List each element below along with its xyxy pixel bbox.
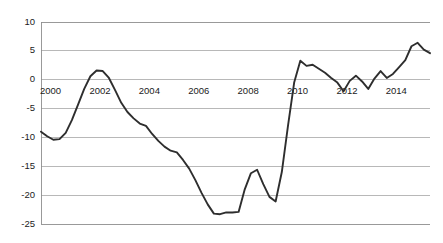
y-tick-label--15: -15	[21, 160, 35, 171]
y-tick-label--10: -10	[21, 131, 35, 142]
series-line-1	[41, 43, 430, 214]
chart-container: 1050-5-10-15-20-25 200020022004200620082…	[0, 0, 443, 243]
y-tick-label-0: 0	[30, 73, 35, 84]
line-chart: 1050-5-10-15-20-25 200020022004200620082…	[0, 0, 443, 243]
x-axis-tick-labels: 20002002200420062008201020122014	[40, 85, 407, 96]
data-series-group	[41, 43, 430, 214]
y-tick-label-10: 10	[24, 16, 35, 27]
x-tick-label-2010: 2010	[287, 85, 308, 96]
x-tick-label-2006: 2006	[188, 85, 209, 96]
x-tick-label-2000: 2000	[40, 85, 61, 96]
y-tick-label--20: -20	[21, 189, 35, 200]
gridlines-group	[41, 22, 430, 224]
y-tick-label-5: 5	[30, 44, 35, 55]
x-tick-label-2014: 2014	[386, 85, 407, 96]
y-axis-tick-labels: 1050-5-10-15-20-25	[21, 16, 35, 229]
x-tick-label-2008: 2008	[238, 85, 259, 96]
y-tick-label--5: -5	[27, 102, 35, 113]
x-tick-label-2002: 2002	[89, 85, 110, 96]
y-tick-label--25: -25	[21, 218, 35, 229]
x-tick-label-2004: 2004	[139, 85, 160, 96]
